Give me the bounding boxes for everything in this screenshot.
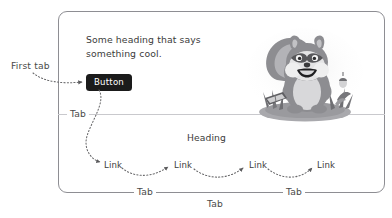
tab-order-diagram: Some heading that says something cool. B… — [0, 0, 392, 218]
hero-heading: Some heading that says something cool. — [86, 33, 246, 60]
link-item-4[interactable]: Link — [317, 160, 335, 170]
link-item-3[interactable]: Link — [249, 160, 267, 170]
primary-button[interactable]: Button — [86, 74, 132, 91]
link-item-2[interactable]: Link — [174, 160, 192, 170]
annotation-tab-outside: Tab — [207, 198, 223, 209]
squirrel-mascot-image — [243, 26, 367, 122]
annotation-tab-bottom-left: Tab — [134, 186, 156, 197]
section-heading: Heading — [187, 132, 226, 143]
annotation-tab-bottom-right: Tab — [283, 186, 305, 197]
link-item-1[interactable]: Link — [104, 160, 122, 170]
annotation-first-tab: First tab — [11, 60, 50, 71]
annotation-tab-divider: Tab — [67, 108, 89, 119]
